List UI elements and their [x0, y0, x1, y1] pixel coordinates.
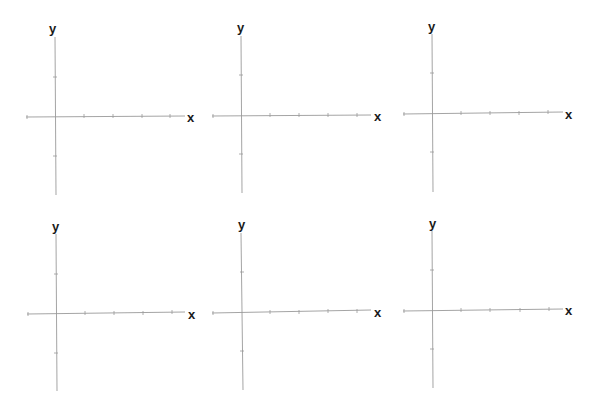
x-axis-label: x: [374, 110, 381, 123]
x-axis: [212, 310, 371, 313]
y-axis: [241, 36, 242, 193]
coordinate-plane-6: y x: [399, 200, 598, 400]
coordinate-plane-4: y x: [0, 200, 199, 400]
y-axis-label: y: [49, 22, 56, 35]
y-axis: [241, 233, 243, 390]
y-axis-label: y: [52, 220, 59, 233]
coordinate-plane-3: y x: [399, 0, 598, 200]
x-axis-label: x: [188, 308, 195, 321]
y-axis-label: y: [429, 217, 436, 230]
axes-graphic: [0, 200, 199, 405]
y-axis: [56, 234, 57, 391]
x-axis-label: x: [187, 111, 194, 124]
x-axis: [403, 309, 563, 311]
y-axis-label: y: [238, 218, 245, 231]
axes-graphic: [0, 0, 199, 200]
x-axis: [26, 116, 185, 117]
coordinate-plane-2: y x: [200, 0, 399, 200]
axes-graphic: [200, 200, 399, 405]
x-axis: [212, 115, 371, 116]
x-axis-label: x: [565, 304, 572, 317]
y-axis-label: y: [428, 20, 435, 33]
y-axis: [55, 37, 56, 195]
coordinate-plane-5: y x: [200, 200, 399, 400]
x-axis-label: x: [374, 306, 381, 319]
x-axis: [27, 312, 185, 314]
coordinate-plane-1: y x: [0, 0, 199, 200]
y-axis: [432, 231, 433, 388]
x-axis-label: x: [565, 108, 572, 121]
axes-graphic: [200, 0, 399, 200]
y-axis: [432, 34, 433, 192]
y-axis-label: y: [237, 21, 244, 34]
x-axis: [403, 112, 563, 114]
